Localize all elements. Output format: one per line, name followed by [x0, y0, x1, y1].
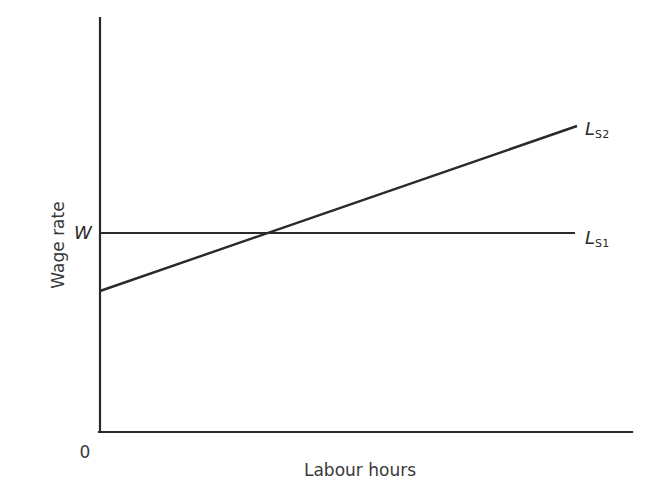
curve-label-ls1-base: L	[585, 227, 595, 248]
y-axis-title: Wage rate	[50, 201, 67, 288]
origin-label: 0	[80, 444, 91, 461]
wage-rate-marker-label: W	[74, 224, 92, 242]
curve-label-ls1-subscript: S1	[595, 237, 610, 250]
curve-label-ls1: LS1	[585, 229, 610, 247]
curve-ls2	[100, 126, 577, 291]
curve-label-ls2: LS2	[585, 120, 610, 138]
curve-label-ls2-subscript: S2	[595, 128, 610, 141]
x-axis-title: Labour hours	[304, 462, 416, 479]
labour-supply-diagram: Wage rate Labour hours 0 W LS2 LS1	[0, 0, 667, 500]
plot-area	[0, 0, 667, 500]
curve-label-ls2-base: L	[585, 118, 595, 139]
